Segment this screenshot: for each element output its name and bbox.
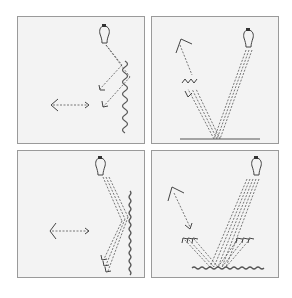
lightbulb-icon: [244, 28, 254, 47]
specular-flat-surface-diagram: [152, 17, 280, 145]
eye-icon: [168, 187, 192, 229]
incident-rays: [103, 177, 128, 221]
panel-top-right: [151, 16, 279, 144]
lightbulb-icon: [96, 156, 106, 175]
rough-horizontal-surface-diagram: [152, 151, 280, 279]
reflected-rays: [101, 217, 128, 272]
wavy-surface: [123, 61, 128, 133]
incident-rays: [106, 45, 130, 77]
reflected-rays: [182, 79, 220, 139]
rough-vertical-surface-diagram: [18, 151, 146, 279]
eye-icon: [51, 99, 89, 111]
panel-top-left: [17, 16, 145, 144]
rough-surface: [192, 267, 264, 269]
eye-icon: [176, 39, 192, 75]
lightbulb-icon: [252, 156, 262, 175]
reflected-rays: [182, 238, 254, 267]
incident-rays: [214, 50, 252, 139]
incident-rays: [210, 179, 259, 267]
eye-icon: [50, 223, 89, 239]
rough-surface: [129, 191, 131, 275]
lightbulb-icon: [100, 24, 110, 43]
diffuse-wavy-surface-diagram: [18, 17, 146, 145]
panel-bottom-left: [17, 150, 145, 278]
panel-bottom-right: [151, 150, 279, 278]
